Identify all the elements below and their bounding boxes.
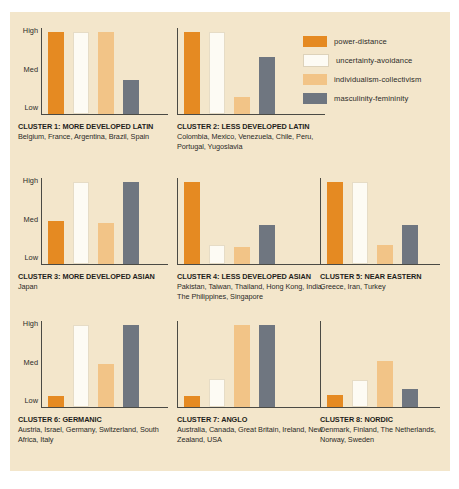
cluster-panel-8: CLUSTER 8: NORDIC Denmark, Finland, The … bbox=[318, 315, 458, 412]
cluster-countries: Australia, Canada, Great Britain, Irelan… bbox=[177, 425, 329, 445]
bar-group-8 bbox=[327, 321, 418, 407]
y-tick-high: High bbox=[23, 177, 38, 184]
bar-individualism-collectivism bbox=[377, 361, 393, 407]
cluster-caption-1: CLUSTER 1: MORE DEVELOPED LATIN Belgium,… bbox=[18, 122, 170, 142]
cluster-title: CLUSTER 7: ANGLO bbox=[177, 415, 329, 425]
cluster-caption-5: CLUSTER 5: NEAR EASTERN Greece, Iran, Tu… bbox=[320, 272, 459, 292]
bar-individualism-collectivism bbox=[377, 245, 393, 264]
cluster-countries: Japan bbox=[18, 282, 170, 292]
cluster-panel-5: CLUSTER 5: NEAR EASTERN Greece, Iran, Tu… bbox=[318, 172, 458, 269]
cluster-title: CLUSTER 3: MORE DEVELOPED ASIAN bbox=[18, 272, 170, 282]
bar-individualism-collectivism bbox=[98, 223, 114, 264]
bar-uncertainty-avoidance bbox=[352, 380, 368, 407]
bar-group-5 bbox=[327, 178, 418, 264]
bar-power-distance bbox=[184, 182, 200, 264]
cluster-title: CLUSTER 1: MORE DEVELOPED LATIN bbox=[18, 122, 170, 132]
cluster-chart-3: High Med Low bbox=[18, 172, 168, 269]
bar-uncertainty-avoidance bbox=[352, 182, 368, 264]
bar-individualism-collectivism bbox=[98, 32, 114, 114]
cluster-caption-4: CLUSTER 4: LESS DEVELOPED ASIAN Pakistan… bbox=[177, 272, 329, 302]
bar-group-1 bbox=[48, 28, 139, 114]
bar-individualism-collectivism bbox=[234, 97, 250, 114]
cluster-panel-4: CLUSTER 4: LESS DEVELOPED ASIAN Pakistan… bbox=[175, 172, 325, 269]
cluster-chart-7 bbox=[175, 315, 325, 412]
bar-masculinity-femininity bbox=[259, 225, 275, 264]
cluster-chart-6: High Med Low bbox=[18, 315, 168, 412]
bar-masculinity-femininity bbox=[259, 325, 275, 407]
bar-group-2 bbox=[184, 28, 275, 114]
cluster-panel-1: High Med Low CLUSTER 1: MORE DEVELOPED L… bbox=[18, 22, 168, 119]
bar-uncertainty-avoidance bbox=[73, 182, 89, 264]
cluster-chart-8 bbox=[318, 315, 458, 412]
cluster-chart-2 bbox=[175, 22, 325, 119]
cluster-countries: Belgium, France, Argentina, Brazil, Spai… bbox=[18, 132, 170, 142]
bar-power-distance bbox=[327, 182, 343, 264]
plot-area-6 bbox=[41, 321, 168, 408]
bar-power-distance bbox=[327, 395, 343, 407]
y-tick-med: Med bbox=[24, 359, 38, 366]
cluster-title: CLUSTER 4: LESS DEVELOPED ASIAN bbox=[177, 272, 329, 282]
bar-individualism-collectivism bbox=[234, 325, 250, 407]
y-tick-med: Med bbox=[24, 216, 38, 223]
bar-uncertainty-avoidance bbox=[209, 245, 225, 264]
bar-uncertainty-avoidance bbox=[209, 32, 225, 114]
cluster-title: CLUSTER 5: NEAR EASTERN bbox=[320, 272, 459, 282]
plot-area-2 bbox=[177, 28, 325, 115]
bar-group-4 bbox=[184, 178, 275, 264]
y-tick-high: High bbox=[23, 320, 38, 327]
cluster-panel-7: CLUSTER 7: ANGLO Australia, Canada, Grea… bbox=[175, 315, 325, 412]
cluster-panel-6: High Med Low CLUSTER 6: GERMANIC Austria… bbox=[18, 315, 168, 412]
bar-masculinity-femininity bbox=[402, 225, 418, 264]
cluster-countries: Austria, Israel, Germany, Switzerland, S… bbox=[18, 425, 170, 445]
bar-power-distance bbox=[48, 396, 64, 407]
y-tick-med: Med bbox=[24, 66, 38, 73]
bar-group-3 bbox=[48, 178, 139, 264]
bar-individualism-collectivism bbox=[98, 364, 114, 407]
cluster-chart-4 bbox=[175, 172, 325, 269]
y-tick-high: High bbox=[23, 27, 38, 34]
cluster-title: CLUSTER 6: GERMANIC bbox=[18, 415, 170, 425]
y-axis-labels-3: High Med Low bbox=[18, 172, 40, 269]
y-tick-low: Low bbox=[24, 397, 38, 404]
plot-area-1 bbox=[41, 28, 168, 115]
cluster-row-2: High Med Low CLUSTER 3: MORE DEVELOPED A… bbox=[0, 172, 459, 312]
bar-power-distance bbox=[48, 32, 64, 114]
bar-masculinity-femininity bbox=[259, 57, 275, 114]
bar-power-distance bbox=[48, 221, 64, 264]
bar-uncertainty-avoidance bbox=[209, 379, 225, 407]
bar-group-6 bbox=[48, 321, 139, 407]
cluster-panel-3: High Med Low CLUSTER 3: MORE DEVELOPED A… bbox=[18, 172, 168, 269]
y-tick-low: Low bbox=[24, 104, 38, 111]
bar-power-distance bbox=[184, 32, 200, 114]
cluster-caption-6: CLUSTER 6: GERMANIC Austria, Israel, Ger… bbox=[18, 415, 170, 445]
cluster-countries: Colombia, Mexico, Venezuela, Chile, Peru… bbox=[177, 132, 329, 152]
cluster-title: CLUSTER 2: LESS DEVELOPED LATIN bbox=[177, 122, 329, 132]
cluster-caption-3: CLUSTER 3: MORE DEVELOPED ASIAN Japan bbox=[18, 272, 170, 292]
bar-individualism-collectivism bbox=[234, 247, 250, 264]
plot-area-4 bbox=[177, 178, 325, 265]
cluster-caption-7: CLUSTER 7: ANGLO Australia, Canada, Grea… bbox=[177, 415, 329, 445]
figure-canvas: power-distance uncertainty-avoidance ind… bbox=[0, 0, 459, 489]
cluster-caption-8: CLUSTER 8: NORDIC Denmark, Finland, The … bbox=[320, 415, 455, 445]
bar-masculinity-femininity bbox=[123, 182, 139, 264]
cluster-countries: Greece, Iran, Turkey bbox=[320, 282, 459, 292]
y-axis-labels-1: High Med Low bbox=[18, 22, 40, 119]
cluster-row-1: High Med Low CLUSTER 1: MORE DEVELOPED L… bbox=[0, 22, 459, 172]
plot-area-8 bbox=[320, 321, 440, 408]
bar-power-distance bbox=[184, 396, 200, 407]
bar-masculinity-femininity bbox=[123, 80, 139, 114]
bar-masculinity-femininity bbox=[402, 389, 418, 407]
cluster-countries: Denmark, Finland, The Netherlands, Norwa… bbox=[320, 425, 455, 445]
bar-group-7 bbox=[184, 321, 275, 407]
cluster-caption-2: CLUSTER 2: LESS DEVELOPED LATIN Colombia… bbox=[177, 122, 329, 152]
bar-uncertainty-avoidance bbox=[73, 325, 89, 407]
plot-area-7 bbox=[177, 321, 325, 408]
cluster-chart-1: High Med Low bbox=[18, 22, 168, 119]
cluster-chart-5 bbox=[318, 172, 458, 269]
y-tick-low: Low bbox=[24, 254, 38, 261]
bar-masculinity-femininity bbox=[123, 325, 139, 407]
plot-area-5 bbox=[320, 178, 440, 265]
bar-uncertainty-avoidance bbox=[73, 32, 89, 114]
cluster-title: CLUSTER 8: NORDIC bbox=[320, 415, 455, 425]
cluster-countries: Pakistan, Taiwan, Thailand, Hong Kong, I… bbox=[177, 282, 329, 302]
